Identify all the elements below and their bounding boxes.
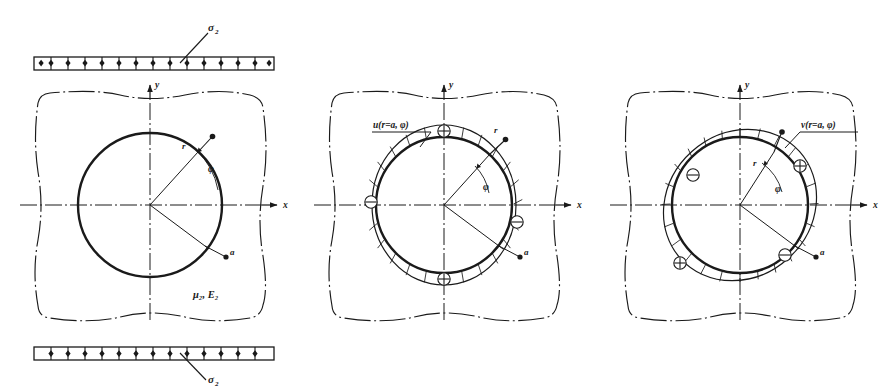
- sign-marker-upper-left: [687, 169, 699, 181]
- hole-radius-vector: [150, 205, 209, 249]
- panel-radial-displacement: x y: [314, 80, 582, 321]
- angle-label-2: φ: [483, 181, 489, 192]
- y-axis-label-3: y: [744, 80, 750, 90]
- radius-label: r: [182, 141, 186, 151]
- load-bar-top: σ 2: [34, 21, 274, 70]
- sign-marker-lower-left: [674, 257, 686, 269]
- sigma-top-label: σ: [208, 21, 215, 33]
- hole-radius-leader-dot-2: [517, 254, 522, 259]
- sign-marker-lower-right: [779, 249, 791, 261]
- sign-marker-left: [365, 196, 377, 208]
- y-axis-label-2: y: [448, 80, 454, 90]
- field-label-3: v(r=a, φ): [801, 120, 836, 131]
- hole-radius-vector-2: [444, 205, 503, 249]
- x-axis-label-3: x: [872, 200, 878, 210]
- sign-marker-right: [511, 216, 523, 228]
- panel-tangential-displacement: x y: [610, 80, 878, 321]
- y-axis-label: y: [154, 80, 160, 90]
- radius-label-3: r: [753, 158, 757, 168]
- radius-leader-dot-3: [779, 129, 785, 135]
- hole-radius-leader: [205, 246, 224, 256]
- load-bar-top-arrowheads: [39, 60, 272, 67]
- hole-radius-leader-3: [795, 246, 814, 256]
- radius-leader-dot-2: [503, 137, 509, 143]
- sign-marker-upper-right: [794, 160, 806, 172]
- angle-label-3: φ: [775, 183, 781, 194]
- hole-radius-leader-2: [499, 246, 518, 256]
- angle-arc: [196, 150, 218, 190]
- x-axis-label: x: [282, 200, 288, 210]
- load-bar-bottom: σ 2: [34, 347, 274, 387]
- load-bar-bottom-arrowheads: [48, 350, 257, 357]
- field-label-2: u(r=a, φ): [373, 120, 409, 131]
- angle-label: φ: [208, 163, 214, 174]
- radius-leader-dot: [210, 134, 216, 140]
- radius-vector-2: [444, 154, 490, 205]
- figure-root: σ 2 x y r φ a μ₂, E₂: [0, 0, 889, 387]
- radius-label-2: r: [494, 125, 498, 135]
- hole-radius-leader-dot: [223, 254, 228, 259]
- hole-radius-label-3: a: [820, 247, 825, 257]
- sigma-top-subscript: 2: [214, 28, 219, 36]
- hole-radius-leader-dot-3: [813, 254, 818, 259]
- diagram-svg: σ 2 x y r φ a μ₂, E₂: [0, 0, 889, 387]
- load-bar-bottom-leader: [180, 353, 206, 380]
- sign-marker-bottom: [438, 273, 450, 285]
- sign-marker-top: [438, 125, 450, 137]
- radius-vector: [150, 152, 198, 205]
- material-label: μ₂, E₂: [192, 289, 219, 300]
- sigma-bottom-label: σ: [208, 373, 215, 385]
- panel-geometry: σ 2 x y r φ a μ₂, E₂: [20, 21, 288, 387]
- hole-radius-vector-3: [740, 205, 799, 249]
- field-label-leader-3: [785, 132, 800, 148]
- hole-radius-label-2: a: [524, 247, 529, 257]
- radius-leader-2: [490, 141, 504, 154]
- sigma-bottom-subscript: 2: [214, 380, 219, 387]
- radius-vector-3: [740, 152, 774, 205]
- hole-radius-label: a: [230, 247, 235, 257]
- x-axis-label-2: x: [576, 200, 582, 210]
